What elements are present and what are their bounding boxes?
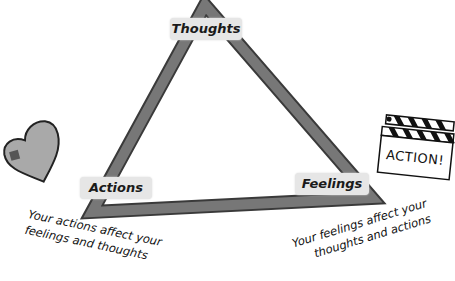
cbt-triangle-diagram: ACTION! Thoughts Actions Feelings Your a… [0,0,455,281]
node-thoughts: Thoughts [170,18,242,40]
node-feelings: Feelings [295,173,369,195]
node-actions: Actions [80,177,152,199]
